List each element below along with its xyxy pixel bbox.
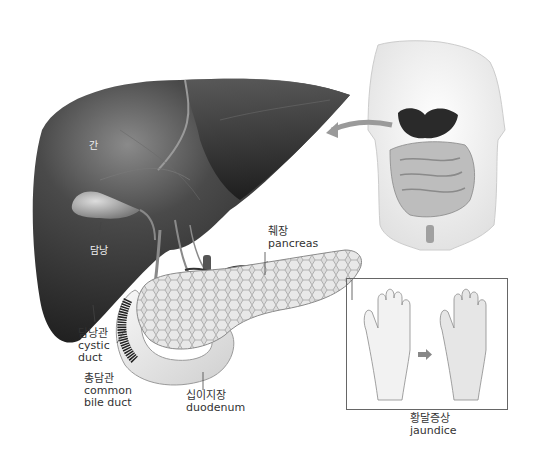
label-jaundice: 황달증상 jaundice xyxy=(410,413,457,437)
body-figure xyxy=(368,41,505,250)
anatomy-figure: 간 담낭 췌장 pancreas 담낭관 cystic duct 총담관 com… xyxy=(0,0,537,464)
label-duodenum: 십이지장 duodenum xyxy=(186,390,245,414)
jaundice-inset-frame xyxy=(346,278,508,410)
label-liver: 간 xyxy=(89,140,98,152)
pancreas xyxy=(137,250,362,349)
label-pancreas: 췌장 pancreas xyxy=(268,226,318,250)
label-cystic-duct: 담낭관 cystic duct xyxy=(78,328,110,364)
label-gallbladder: 담낭 xyxy=(90,245,108,257)
label-common-bile-duct: 총담관 common bile duct xyxy=(84,373,132,409)
